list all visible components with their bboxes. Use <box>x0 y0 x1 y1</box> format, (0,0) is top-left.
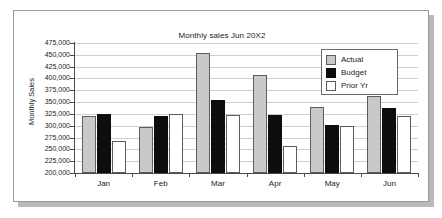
legend-label-prior: Prior Yr <box>341 81 368 90</box>
y-axis-tick-mark <box>70 78 75 79</box>
x-axis-tick-mark <box>189 173 190 177</box>
legend-item-prior: Prior Yr <box>326 79 393 92</box>
bar-feb-budget <box>154 116 168 173</box>
y-axis-tick-mark <box>70 102 75 103</box>
y-axis-tick-label: 475,000 <box>22 39 70 46</box>
legend-swatch-prior <box>326 81 336 91</box>
legend-swatch-actual <box>326 55 336 65</box>
bar-jan-actual <box>82 116 96 173</box>
legend-swatch-budget <box>326 68 336 78</box>
bar-jan-budget <box>97 114 111 173</box>
y-axis-tick-label: 275,000 <box>22 134 70 141</box>
y-axis-tick-label: 350,000 <box>22 98 70 105</box>
legend-item-budget: Budget <box>326 66 393 79</box>
x-axis-tick-mark <box>132 173 133 177</box>
y-axis-tick-mark <box>70 161 75 162</box>
y-axis-tick-mark <box>70 43 75 44</box>
x-axis-tick-mark <box>247 173 248 177</box>
x-axis-tick-mark <box>418 173 419 177</box>
chart-title: Monthly sales Jun 20X2 <box>14 31 430 40</box>
y-axis-tick-mark <box>70 55 75 56</box>
bar-may-budget <box>325 125 339 173</box>
bar-jun-actual <box>367 96 381 173</box>
y-axis-tick-label: 225,000 <box>22 157 70 164</box>
bar-mar-prior <box>226 115 240 173</box>
y-axis-tick-label: 375,000 <box>22 86 70 93</box>
x-axis-tick-label-may: May <box>304 179 361 188</box>
y-axis-tick-label: 200,000 <box>22 169 70 176</box>
bar-apr-prior <box>283 146 297 173</box>
bar-jun-budget <box>382 108 396 173</box>
y-axis-tick-mark <box>70 90 75 91</box>
legend-label-budget: Budget <box>341 68 366 77</box>
y-axis-tick-mark <box>70 114 75 115</box>
y-axis-tick-mark <box>70 67 75 68</box>
bar-feb-actual <box>139 127 153 173</box>
bar-apr-actual <box>253 75 267 173</box>
bar-jun-prior <box>397 116 411 173</box>
bar-apr-budget <box>268 115 282 173</box>
bar-jan-prior <box>112 141 126 173</box>
y-axis-tick-label: 250,000 <box>22 145 70 152</box>
x-axis-tick-mark <box>304 173 305 177</box>
x-axis-tick-mark <box>361 173 362 177</box>
y-axis-tick-label: 325,000 <box>22 110 70 117</box>
x-axis-tick-label-mar: Mar <box>189 179 246 188</box>
y-axis-tick-label: 425,000 <box>22 63 70 70</box>
legend-item-actual: Actual <box>326 53 393 66</box>
y-axis-tick-label: 450,000 <box>22 51 70 58</box>
x-axis-tick-label-jan: Jan <box>75 179 132 188</box>
y-axis-tick-mark <box>70 126 75 127</box>
x-axis-tick-label-apr: Apr <box>247 179 304 188</box>
grid-line <box>75 43 418 44</box>
bar-may-actual <box>310 107 324 173</box>
x-axis-tick-label-feb: Feb <box>132 179 189 188</box>
y-axis-tick-mark <box>70 138 75 139</box>
y-axis-tick-label: 400,000 <box>22 74 70 81</box>
y-axis-tick-label: 300,000 <box>22 122 70 129</box>
x-axis-tick-mark <box>75 173 76 177</box>
chart-legend: ActualBudgetPrior Yr <box>321 49 398 95</box>
bar-feb-prior <box>169 114 183 173</box>
bar-may-prior <box>340 126 354 173</box>
x-axis-tick-label-jun: Jun <box>361 179 418 188</box>
y-axis-tick-mark <box>70 149 75 150</box>
legend-label-actual: Actual <box>341 55 363 64</box>
chart-panel: Monthly sales Jun 20X2 Monthly Sales 475… <box>13 10 429 202</box>
chart-screenshot: Monthly sales Jun 20X2 Monthly Sales 475… <box>0 0 442 218</box>
bar-mar-budget <box>211 100 225 173</box>
bar-mar-actual <box>196 53 210 173</box>
